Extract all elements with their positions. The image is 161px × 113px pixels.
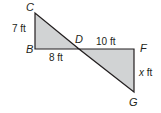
triangle-cbd: [35, 13, 79, 49]
point-c-label: C: [26, 2, 34, 13]
point-b-label: B: [26, 44, 33, 55]
bd-length-label: 8 ft: [49, 53, 63, 63]
fg-length-label: x ft: [139, 68, 152, 78]
fg-unit: ft: [144, 67, 152, 78]
point-g-label: G: [129, 97, 138, 108]
point-f-label: F: [140, 43, 147, 54]
point-d-label: D: [75, 34, 83, 45]
triangle-dfg: [79, 49, 134, 92]
cb-length-label: 7 ft: [12, 24, 26, 34]
df-length-label: 10 ft: [96, 37, 115, 47]
